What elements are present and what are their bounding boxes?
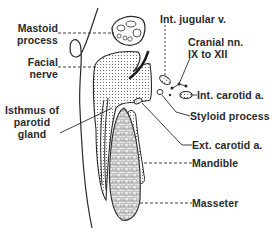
cranial-nerve-dot (169, 94, 171, 96)
label-isthmus-parotid: Isthmus of parotid gland (2, 104, 62, 140)
label-cranial-nerves: Cranial nn. IX to XII (188, 36, 243, 60)
label-line: parotid (2, 116, 62, 128)
anatomy-diagram: Mastoid process Facial nerve Isthmus of … (0, 0, 277, 240)
label-line: IX to XII (188, 48, 243, 60)
label-ext-carotid: Ext. carotid a. (192, 139, 262, 151)
label-line: Isthmus of (2, 104, 62, 116)
label-masseter: Masseter (192, 197, 238, 209)
label-line: process (6, 34, 58, 46)
label-mandible: Mandible (192, 157, 238, 169)
label-int-jugular: Int. jugular v. (160, 13, 226, 25)
int-jugular-shape (158, 74, 172, 87)
label-line: Mastoid (6, 22, 58, 34)
styloid-shape (157, 90, 163, 95)
label-line: Cranial nn. (188, 36, 243, 48)
label-line: nerve (6, 68, 58, 80)
label-mastoid-process: Mastoid process (6, 22, 58, 46)
mastoid-process-shape (112, 16, 145, 45)
label-styloid-process: Styloid process (190, 110, 270, 122)
int-carotid-shape (180, 92, 192, 99)
label-facial-nerve: Facial nerve (6, 56, 58, 80)
label-line: Facial (6, 56, 58, 68)
label-line: gland (2, 128, 62, 140)
label-int-carotid: Int. carotid a. (197, 89, 264, 101)
skin-outline (70, 8, 98, 228)
